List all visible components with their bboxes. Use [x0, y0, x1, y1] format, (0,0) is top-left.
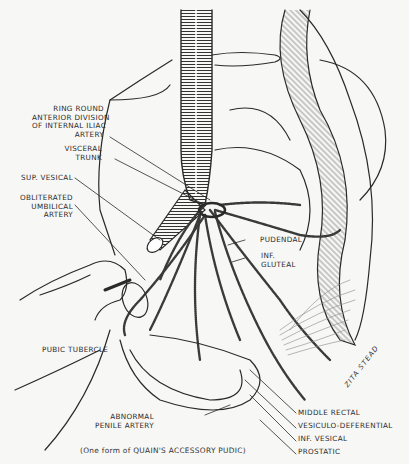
- label-abnormal-penile-artery: ABNORMAL PENILE ARTERY: [70, 413, 154, 430]
- figure-caption: (One form of QUAIN'S ACCESSORY PUDIC): [80, 446, 246, 455]
- label-visceral-trunk: VISCERAL TRUNK: [30, 145, 102, 162]
- label-pubic-tubercle: PUBIC TUBERCLE: [42, 346, 108, 355]
- label-ring-round: RING ROUND ANTERIOR DIVISION OF INTERNAL…: [32, 105, 104, 139]
- label-prostatic: PROSTATIC: [298, 448, 340, 457]
- label-inf-vesical: INF. VESICAL: [298, 435, 347, 444]
- label-sup-vesical: SUP. VESICAL: [5, 174, 73, 183]
- label-pudendal: PUDENDAL: [260, 236, 302, 245]
- label-inf-gluteal: INF. GLUTEAL: [261, 252, 296, 269]
- label-obliterated-umbilical: OBLITERATED UMBILICAL ARTERY: [5, 194, 73, 220]
- anatomy-illustration: [0, 0, 409, 464]
- label-vesiculo-deferential: VESICULO-DEFERENTIAL: [298, 422, 393, 431]
- label-middle-rectal: MIDDLE RECTAL: [298, 409, 360, 418]
